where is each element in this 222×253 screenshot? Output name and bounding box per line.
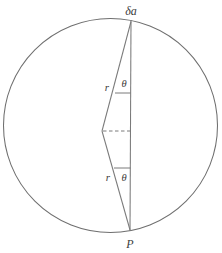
label-r-lower: r xyxy=(106,171,111,183)
label-p: P xyxy=(125,237,134,251)
label-theta-lower: θ xyxy=(121,172,126,183)
figure-canvas: δa P r θ r θ xyxy=(0,0,222,253)
background-rect xyxy=(0,0,222,253)
label-delta-a: δa xyxy=(125,4,137,18)
geometry-diagram: δa P r θ r θ xyxy=(0,0,222,253)
label-theta-upper: θ xyxy=(121,78,126,89)
label-r-upper: r xyxy=(105,81,110,93)
